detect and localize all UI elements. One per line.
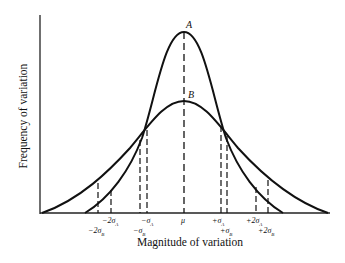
- x-axis-title: Magnitude of variation: [137, 236, 243, 248]
- tick-minus-sigma-a: −σA: [141, 216, 153, 227]
- tick-plus-sigma-a: +σA: [212, 216, 224, 227]
- curve-b-label: B: [188, 89, 194, 100]
- curve-a-label: A: [186, 19, 192, 30]
- normal-distribution-diagram: [0, 0, 345, 263]
- y-axis-title: Frequency of variation: [17, 51, 29, 181]
- curve-b: [42, 101, 328, 213]
- tick-mu: μ: [181, 216, 185, 225]
- tick-minus-sigma-b: −σB: [133, 226, 145, 237]
- tick-plus-2sigma-a: +2σA: [246, 216, 262, 227]
- tick-minus-2sigma-b: −2σB: [88, 226, 104, 237]
- tick-minus-2sigma-a: −2σA: [102, 216, 118, 227]
- tick-plus-sigma-b: +σB: [220, 226, 232, 237]
- tick-plus-2sigma-b: +2σB: [258, 226, 274, 237]
